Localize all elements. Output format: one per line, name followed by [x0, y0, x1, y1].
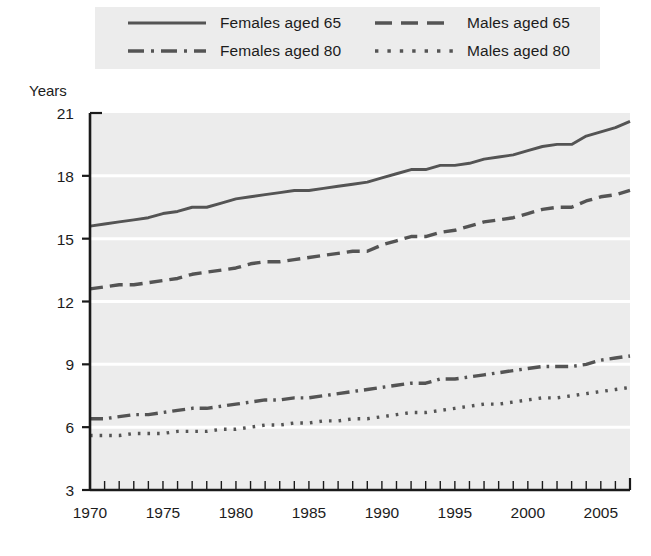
chart-plot-area: 36912151821 1970197519801985199019952000… [0, 0, 651, 556]
y-tick-label: 15 [57, 231, 74, 248]
x-tick-label: 1990 [365, 504, 400, 521]
x-tick-label: 2000 [511, 504, 546, 521]
x-tick-label: 1995 [438, 504, 472, 521]
line-chart-svg: 36912151821 1970197519801985199019952000… [0, 0, 651, 556]
y-tick-label: 3 [65, 482, 74, 499]
y-tick-label: 18 [57, 168, 74, 185]
x-tick-label-layer: 19701975198019851990199520002005 [73, 504, 618, 521]
y-tick-label-layer: 36912151821 [57, 105, 74, 499]
y-tick-label: 12 [57, 294, 74, 311]
x-tick-label: 1985 [292, 504, 326, 521]
y-tick-label: 6 [65, 419, 74, 436]
x-tick-label: 1980 [219, 504, 254, 521]
x-tick-label: 1970 [73, 504, 108, 521]
x-tick-label: 1975 [146, 504, 180, 521]
y-tick-label: 9 [65, 356, 74, 373]
y-tick-label: 21 [57, 105, 74, 122]
x-tick-label: 2005 [584, 504, 618, 521]
